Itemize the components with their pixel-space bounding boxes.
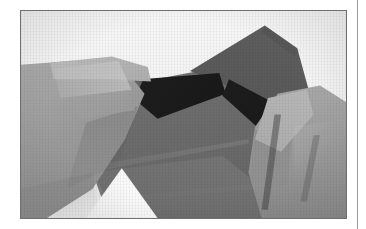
- photo-frame: [20, 10, 347, 219]
- photograph: [21, 11, 346, 218]
- column-rule: [357, 0, 358, 229]
- page-root: [0, 0, 366, 229]
